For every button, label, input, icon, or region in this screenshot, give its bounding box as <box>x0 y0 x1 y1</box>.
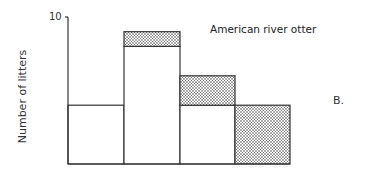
bar-4-shaded-segment <box>235 105 290 164</box>
bar-2-unshaded-segment <box>124 46 180 164</box>
bar-2-shaded-segment <box>124 32 180 47</box>
bar-3-unshaded-segment <box>180 105 235 164</box>
bar-1-unshaded-segment <box>68 105 124 164</box>
bars-group <box>68 32 290 164</box>
bar-3-shaded-segment <box>180 76 235 105</box>
bar-chart <box>0 0 380 173</box>
